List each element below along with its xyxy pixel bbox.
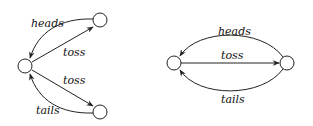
node-top-right [93,13,107,27]
state-diagrams: heads toss toss tails heads toss tails [0,0,313,126]
label-toss-right: toss [221,49,244,62]
label-heads-right: heads [218,25,251,38]
edge-tails-right [180,69,283,91]
label-tails-right: tails [221,93,245,106]
node-bottom-right [93,105,107,119]
branching-diagram: heads toss toss tails [18,13,107,119]
label-toss-upper: toss [63,46,86,59]
label-heads: heads [31,17,64,30]
node-center [18,59,32,73]
label-toss-lower: toss [63,74,86,87]
two-node-diagram: heads toss tails [167,25,294,106]
node-right [280,56,294,70]
label-tails: tails [36,104,60,117]
node-left [167,56,181,70]
